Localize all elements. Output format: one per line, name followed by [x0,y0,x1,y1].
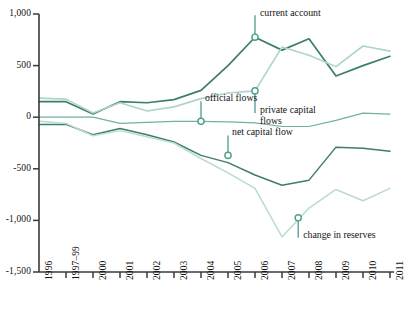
y-tick-label: 1,000 [9,8,31,18]
x-tick-label: 1996 [44,261,54,280]
x-tick-label: 2003 [179,261,189,280]
x-tick-label: 2008 [314,261,324,280]
y-tick-label: 500 [16,60,31,70]
x-tick-label: 2001 [125,261,135,280]
y-tick-label: -1,000 [6,214,31,224]
series-line-official-flows [39,113,390,126]
annotation-label-current-account: current account [260,7,321,19]
x-tick-label: 1997–99 [71,246,81,280]
y-tick-label: -500 [13,163,31,173]
x-tick-label: 2007 [287,261,297,280]
annotation-label-net-capital-flow: net capital flow [232,126,293,138]
annotation-marker [198,118,204,124]
annotation-label-private-capital-flows: private capital flows [260,104,316,127]
x-tick-label: 2004 [206,261,216,280]
series-layer [39,37,390,237]
x-tick-label: 2000 [98,261,108,280]
x-tick-label: 2010 [368,261,378,280]
x-tick-label: 2006 [260,261,270,280]
x-tick-label: 2005 [233,261,243,280]
annotation-marker [252,34,258,40]
x-tick-label: 2011 [395,261,405,280]
y-tick-label: 0 [26,111,31,121]
annotation-marker [225,152,231,158]
x-tick-label: 2002 [152,261,162,280]
series-line-net-capital-flow [39,124,390,185]
x-tick-label: 2009 [341,261,351,280]
series-line-change-in-reserves [39,121,390,237]
y-tick-label: -1,500 [6,266,31,276]
annotation-label-change-in-reserves: change in reserves [303,229,375,241]
annotation-marker [295,215,301,221]
annotation-label-official-flows: official flows [205,92,257,104]
